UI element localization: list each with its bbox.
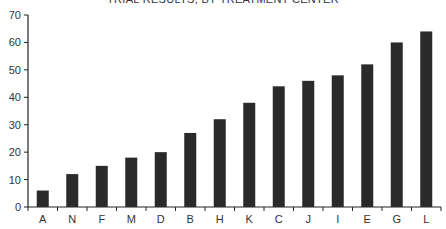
x-category-label: C xyxy=(275,213,283,225)
y-tick-label: 70 xyxy=(9,9,21,21)
x-category-label: J xyxy=(306,213,312,225)
bar-N xyxy=(66,174,78,207)
y-tick-label: 30 xyxy=(9,119,21,131)
x-category-label: M xyxy=(127,213,136,225)
bar-C xyxy=(273,86,285,207)
y-tick-label: 20 xyxy=(9,146,21,158)
bar-F xyxy=(96,166,108,207)
bar-B xyxy=(184,133,196,207)
y-tick-label: 60 xyxy=(9,36,21,48)
bar-I xyxy=(332,75,344,207)
bar-K xyxy=(243,103,255,207)
x-category-label: I xyxy=(336,213,339,225)
bar-J xyxy=(302,81,314,207)
x-category-label: D xyxy=(157,213,165,225)
bar-A xyxy=(37,191,49,207)
x-category-label: E xyxy=(364,213,371,225)
y-tick-label: 50 xyxy=(9,64,21,76)
bar-G xyxy=(391,42,403,207)
x-category-label: B xyxy=(187,213,194,225)
x-category-label: N xyxy=(68,213,76,225)
bar-chart: 010203040506070 ANFMDBHKCJIEGL xyxy=(0,0,446,229)
y-tick-label: 0 xyxy=(15,201,21,213)
x-category-label: K xyxy=(246,213,254,225)
y-axis: 010203040506070 xyxy=(9,9,28,213)
x-category-label: A xyxy=(39,213,47,225)
bar-L xyxy=(420,31,432,207)
x-category-label: F xyxy=(98,213,105,225)
bar-H xyxy=(214,119,226,207)
y-tick-label: 40 xyxy=(9,91,21,103)
bars xyxy=(37,31,433,207)
x-category-label: L xyxy=(423,213,429,225)
bar-M xyxy=(125,158,137,207)
bar-E xyxy=(361,64,373,207)
bar-D xyxy=(155,152,167,207)
y-tick-label: 10 xyxy=(9,174,21,186)
x-category-label: H xyxy=(216,213,224,225)
x-category-label: G xyxy=(392,213,401,225)
x-axis: ANFMDBHKCJIEGL xyxy=(28,207,441,225)
